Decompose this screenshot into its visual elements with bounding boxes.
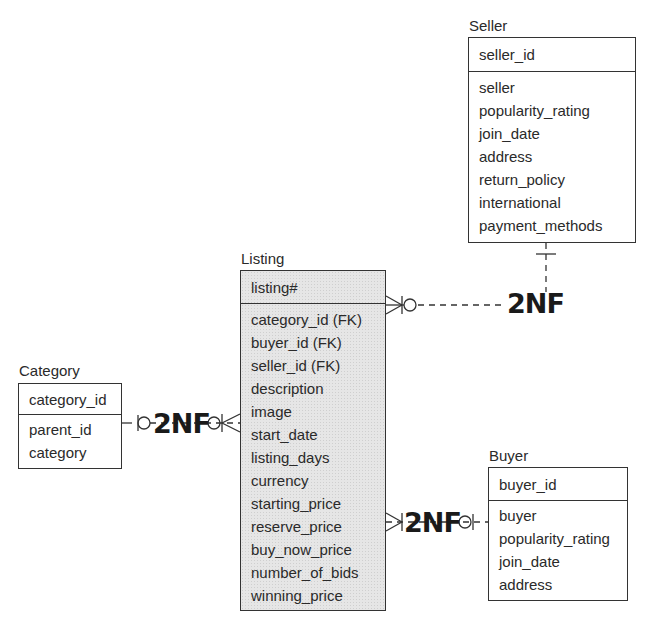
buyer-primary-key: buyer_id xyxy=(489,468,627,501)
relationship-label-seller: 2NF xyxy=(507,290,564,317)
buyer-title: Buyer xyxy=(489,447,528,464)
attribute: join_date xyxy=(499,550,617,573)
listing-entity[interactable]: listing# category_id (FK) buyer_id (FK) … xyxy=(240,270,386,611)
crowfoot-buyer-top xyxy=(386,513,402,522)
attribute: address xyxy=(499,573,617,596)
attribute: international xyxy=(479,191,625,214)
attribute: image xyxy=(251,400,375,423)
attribute: starting_price xyxy=(251,492,375,515)
attribute: parent_id xyxy=(29,418,111,441)
crowfoot-buyer-bottom xyxy=(386,522,402,531)
category-primary-key: category_id xyxy=(19,384,121,415)
category-zero-circle xyxy=(138,417,150,429)
category-entity[interactable]: category_id parent_id category xyxy=(18,383,122,469)
attribute: reserve_price xyxy=(251,515,375,538)
seller-primary-key: seller_id xyxy=(469,38,635,72)
attribute: seller xyxy=(479,76,625,99)
attribute: start_date xyxy=(251,423,375,446)
listing-attributes: category_id (FK) buyer_id (FK) seller_id… xyxy=(241,304,385,607)
category-attributes: parent_id category xyxy=(19,415,121,464)
attribute: buyer xyxy=(499,504,617,527)
category-title: Category xyxy=(19,362,80,379)
attribute: category_id (FK) xyxy=(251,308,375,331)
attribute: address xyxy=(479,145,625,168)
attribute: popularity_rating xyxy=(479,99,625,122)
attribute: buyer_id (FK) xyxy=(251,331,375,354)
buyer-attributes: buyer popularity_rating join_date addres… xyxy=(489,501,627,596)
seller-zero-circle xyxy=(404,299,416,311)
seller-entity[interactable]: seller_id seller popularity_rating join_… xyxy=(468,37,636,243)
relationship-label-category: 2NF xyxy=(153,410,210,437)
attribute: join_date xyxy=(479,122,625,145)
buyer-entity[interactable]: buyer_id buyer popularity_rating join_da… xyxy=(488,467,628,601)
attribute: currency xyxy=(251,469,375,492)
attribute: winning_price xyxy=(251,584,375,607)
attribute: number_of_bids xyxy=(251,561,375,584)
attribute: seller_id (FK) xyxy=(251,354,375,377)
listing-title: Listing xyxy=(241,250,284,267)
seller-title: Seller xyxy=(469,17,507,34)
attribute: popularity_rating xyxy=(499,527,617,550)
crowfoot-seller-bottom xyxy=(386,305,402,314)
attribute: return_policy xyxy=(479,168,625,191)
crowfoot-category-top xyxy=(222,414,240,423)
attribute: payment_methods xyxy=(479,214,625,237)
attribute: buy_now_price xyxy=(251,538,375,561)
attribute: listing_days xyxy=(251,446,375,469)
seller-attributes: seller popularity_rating join_date addre… xyxy=(469,72,635,237)
crowfoot-category-bottom xyxy=(222,423,240,432)
attribute: description xyxy=(251,377,375,400)
relationship-label-buyer: 2NF xyxy=(404,509,461,536)
attribute: category xyxy=(29,441,111,464)
crowfoot-seller-top xyxy=(386,296,402,305)
listing-primary-key: listing# xyxy=(241,271,385,304)
